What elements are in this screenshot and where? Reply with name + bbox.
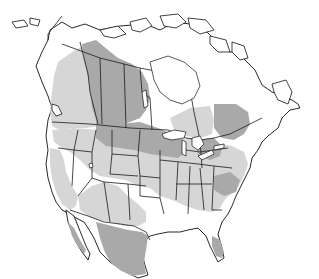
range-map (0, 0, 319, 279)
lake-michigan (182, 140, 186, 156)
range-dark-florida (212, 236, 224, 258)
great-salt-lake (89, 163, 93, 168)
